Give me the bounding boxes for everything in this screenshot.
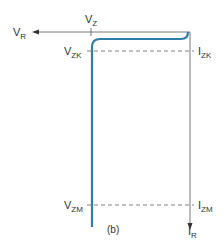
zener-characteristic-diagram [0, 0, 223, 242]
izk-label: IZK [198, 46, 211, 61]
vz-label: VZ [85, 14, 97, 29]
zener-curve [92, 32, 188, 227]
vr-arrow-icon [32, 30, 39, 35]
izm-label: IZM [198, 200, 213, 215]
figure-caption: (b) [107, 224, 119, 235]
vr-axis-label: VR [13, 27, 26, 42]
ir-axis-label: IR [188, 226, 197, 241]
vzk-label: VZK [64, 46, 82, 61]
vzm-label: VZM [64, 200, 83, 215]
